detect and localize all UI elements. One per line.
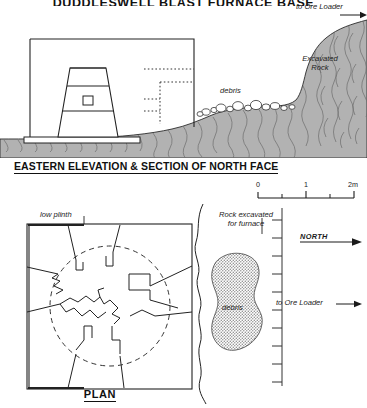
rock-excavated-label-line2: for furnace bbox=[206, 220, 286, 229]
eastern-elevation-drawing bbox=[0, 6, 367, 158]
elevation-ore-loader-label: to Ore Loader bbox=[296, 2, 343, 11]
furnace-circle-outline bbox=[50, 246, 170, 366]
hidden-detail-dotted-lines bbox=[144, 69, 194, 124]
section-title: EASTERN ELEVATION & SECTION OF NORTH FAC… bbox=[14, 160, 278, 174]
plan-caption-text: PLAN bbox=[84, 388, 116, 402]
scale-tick-1: 1 bbox=[304, 180, 308, 189]
north-label: NORTH bbox=[300, 232, 328, 241]
low-plinth-edge bbox=[28, 225, 84, 388]
scale-tick-0: 0 bbox=[256, 180, 260, 189]
scale-tick-2: 2m bbox=[348, 180, 358, 189]
scale-bar bbox=[254, 188, 366, 204]
plan-debris-label: debris bbox=[222, 303, 243, 312]
technical-drawing-sheet: DUDDLESWELL BLAST FURNACE BASE bbox=[0, 0, 367, 408]
masonry-fragment-lines bbox=[27, 225, 192, 388]
excavation-boundary-line bbox=[195, 204, 206, 404]
plan-ore-loader-arrow-icon bbox=[336, 301, 362, 307]
plan-ore-loader-label: to Ore Loader bbox=[276, 298, 323, 307]
excavated-rock-label-line2: Rock bbox=[292, 64, 348, 73]
elevation-debris-label: debris bbox=[220, 86, 241, 95]
furnace-tap-opening bbox=[83, 96, 93, 105]
plan-caption: PLAN bbox=[0, 388, 200, 400]
plan-debris-area bbox=[212, 253, 263, 350]
ore-loader-arrow-icon bbox=[340, 12, 367, 18]
section-grid-line bbox=[272, 208, 282, 386]
furnace-plinth bbox=[24, 137, 140, 143]
low-plinth-label: low plinth bbox=[40, 210, 72, 219]
